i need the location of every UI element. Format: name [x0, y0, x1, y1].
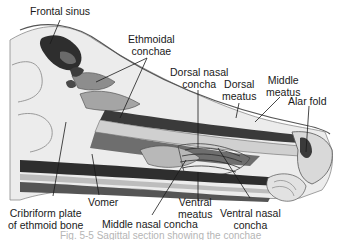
label-ventral-meatus: Ventral meatus [178, 196, 212, 220]
label-vomer: Vomer [88, 196, 118, 208]
label-ethmoidal-conchae-line1: Ethmoidal [128, 33, 175, 45]
label-ventral-nasal-concha-line2: concha [220, 219, 281, 231]
figure-caption: Fig. 5-5 Sagittal section showing the co… [60, 231, 290, 240]
label-dorsal-meatus: Dorsal meatus [222, 78, 256, 102]
label-alar-fold: Alar fold [288, 95, 327, 107]
label-ventral-meatus-line2: meatus [178, 208, 212, 220]
label-cribriform-plate: Cribriform plate of ethmoid bone [8, 207, 83, 231]
label-dorsal-nasal-concha-line2: concha [170, 78, 228, 90]
label-frontal-sinus: Frontal sinus [30, 5, 90, 17]
label-ventral-meatus-line1: Ventral [178, 196, 212, 208]
label-ventral-nasal-concha-line1: Ventral nasal [220, 207, 281, 219]
label-ventral-nasal-concha: Ventral nasal concha [220, 207, 281, 231]
label-cribriform-plate-line1: Cribriform plate [8, 207, 83, 219]
label-middle-meatus-line1: Middle [266, 74, 300, 86]
label-dorsal-nasal-concha-line1: Dorsal nasal [170, 66, 228, 78]
label-dorsal-meatus-line1: Dorsal [222, 78, 256, 90]
label-dorsal-meatus-line2: meatus [222, 90, 256, 102]
label-dorsal-nasal-concha: Dorsal nasal concha [170, 66, 228, 90]
label-ethmoidal-conchae: Ethmoidal conchae [128, 33, 175, 57]
label-ethmoidal-conchae-line2: conchae [128, 45, 175, 57]
anatomy-figure: Frontal sinus Ethmoidal conchae Dorsal n… [0, 0, 338, 240]
label-cribriform-plate-line2: of ethmoid bone [8, 219, 83, 231]
